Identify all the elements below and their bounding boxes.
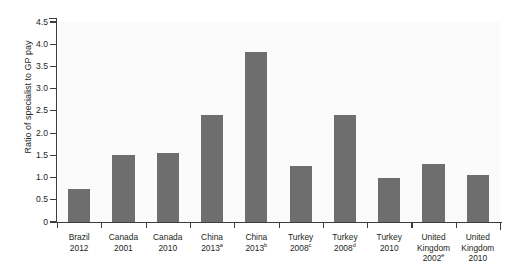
x-axis-tick: [234, 222, 235, 228]
y-axis-top-cap: [49, 18, 57, 19]
y-axis-tick: [50, 133, 56, 134]
y-axis-tick: [50, 155, 56, 156]
y-axis-tick: [50, 66, 56, 67]
y-axis-tick-label: 1.5: [8, 151, 48, 160]
scan-artifact-text: · · · · · · · · ·: [104, 0, 504, 2]
x-axis-category-label: UnitedKingdom2010: [450, 232, 505, 264]
x-axis-tick: [101, 222, 102, 228]
x-axis-tick: [500, 222, 501, 228]
y-axis-tick-label: 0.5: [8, 195, 48, 204]
bar: [245, 52, 267, 222]
x-axis-tick: [279, 222, 280, 228]
chart-figure: · · · · · · · · · Ratio of specialist to…: [0, 0, 530, 277]
y-axis-tick: [50, 221, 56, 222]
y-axis-title: Ratio of specialist to GP pay: [23, 7, 33, 187]
x-axis-tick: [456, 222, 457, 228]
bar: [112, 155, 134, 222]
bar: [201, 115, 223, 222]
y-axis-tick-label: 2.0: [8, 129, 48, 138]
bar: [422, 164, 444, 222]
y-axis-tick-label: 3.5: [8, 62, 48, 71]
bar: [68, 189, 90, 222]
x-axis-tick: [190, 222, 191, 228]
y-axis-tick: [50, 110, 56, 111]
x-axis-tick: [57, 222, 58, 228]
y-axis-tick: [50, 21, 56, 22]
y-axis-tick: [50, 177, 56, 178]
y-axis-tick: [50, 199, 56, 200]
bar: [334, 115, 356, 222]
y-axis-tick: [50, 44, 56, 45]
y-axis-tick-label: 0: [8, 218, 48, 227]
y-axis-tick-label: 1.0: [8, 173, 48, 182]
bar: [290, 166, 312, 222]
bar: [378, 178, 400, 222]
x-axis-tick: [367, 222, 368, 228]
x-axis-tick: [146, 222, 147, 228]
bar: [467, 175, 489, 222]
y-axis-tick: [50, 88, 56, 89]
y-axis-tick-label: 4.5: [8, 18, 48, 27]
x-axis-tick: [411, 222, 412, 228]
y-axis-tick-label: 3.0: [8, 84, 48, 93]
y-axis-line: [56, 18, 57, 223]
scan-artifact: · · · · · · · · ·: [0, 0, 530, 7]
x-axis-tick: [323, 222, 324, 228]
y-axis-tick-label: 4.0: [8, 40, 48, 49]
bar: [157, 153, 179, 222]
y-axis-tick-label: 2.5: [8, 106, 48, 115]
